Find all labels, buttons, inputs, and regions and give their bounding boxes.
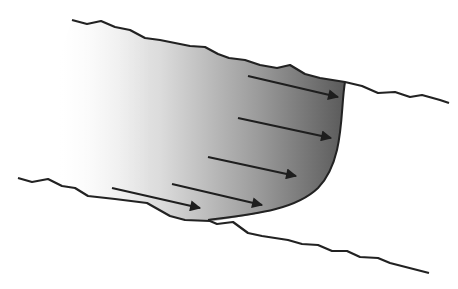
flow-diagram <box>0 0 458 289</box>
fluid-fade <box>0 0 160 240</box>
